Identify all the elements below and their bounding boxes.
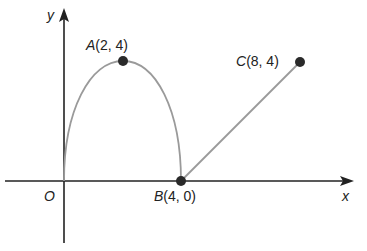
point-a-label: A(2, 4) — [85, 37, 128, 53]
point-b-label: B(4, 0) — [154, 188, 196, 204]
origin-label: O — [44, 188, 55, 204]
point-a — [118, 56, 128, 66]
y-axis — [59, 8, 69, 243]
segment-bc — [181, 62, 300, 181]
x-axis-label: x — [341, 188, 350, 204]
y-axis-label: y — [46, 7, 55, 23]
point-c — [295, 57, 305, 67]
coordinate-diagram: y x O A(2, 4) B(4, 0) C(8, 4) — [0, 0, 367, 251]
point-c-label: C(8, 4) — [236, 53, 279, 69]
parabola-arc — [64, 61, 181, 181]
point-b — [176, 176, 186, 186]
